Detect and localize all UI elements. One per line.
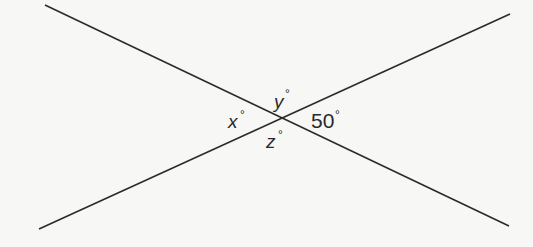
- angle-label-z: z °: [265, 128, 283, 152]
- line-ascending: [39, 14, 510, 229]
- angle-y-variable: y: [272, 91, 285, 112]
- angle-y-degree: °: [285, 87, 290, 101]
- angle-z-degree: °: [278, 128, 283, 142]
- angle-label-y: y °: [272, 87, 290, 112]
- angle-x-degree: °: [240, 108, 245, 122]
- angle-x-variable: x: [227, 111, 239, 132]
- diagram-svg: y ° x ° 50 ° z °: [0, 0, 533, 247]
- intersecting-lines-diagram: y ° x ° 50 ° z °: [0, 0, 533, 247]
- angle-given-degree: °: [335, 108, 340, 122]
- angle-label-given: 50 °: [311, 108, 340, 132]
- angle-label-x: x °: [227, 108, 245, 132]
- line-descending: [45, 5, 509, 226]
- angle-given-value: 50: [311, 109, 334, 132]
- angle-z-variable: z: [265, 131, 276, 152]
